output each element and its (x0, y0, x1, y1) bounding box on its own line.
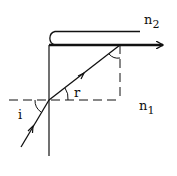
label-angle-i: i (18, 107, 22, 122)
label-n1: n1 (139, 98, 154, 117)
angle-top-arc (109, 54, 120, 58)
upper-boundary-hook (50, 32, 140, 46)
incident-ray (21, 100, 49, 147)
angle-i-arc (35, 100, 41, 112)
label-angle-r: r (74, 85, 81, 100)
label-n2: n2 (144, 12, 159, 31)
refraction-diagram: n2 n1 i r (0, 0, 177, 176)
angle-r-arc (65, 88, 68, 100)
